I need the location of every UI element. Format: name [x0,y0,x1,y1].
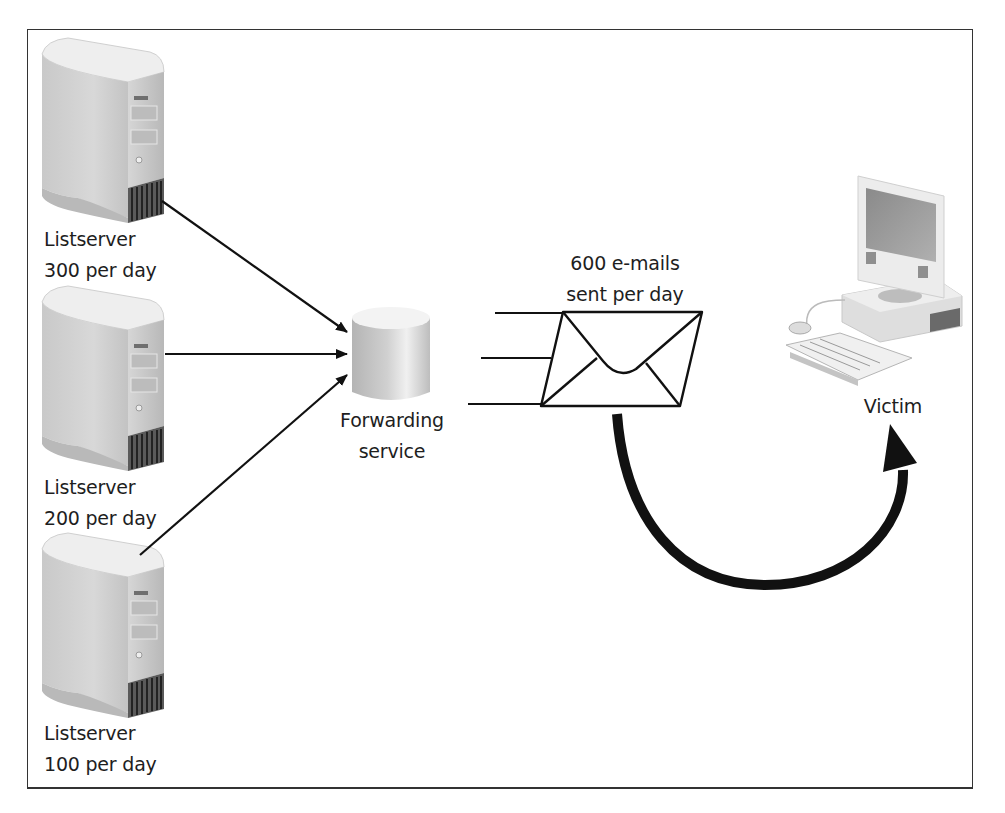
server-tower-icon [42,533,164,718]
listserver-3-rate: 100 per day [44,749,157,780]
listserver-1-rate: 300 per day [44,255,157,286]
victim-label: Victim [843,391,943,422]
database-cylinder-icon [352,307,430,400]
listserver-2-name: Listserver [44,472,157,503]
arrow-listserver3-to-forwarding [140,375,347,555]
forwarding-service-name: Forwarding [322,405,462,436]
listserver-2-rate: 200 per day [44,503,157,534]
listserver-2-label: Listserver 200 per day [44,472,157,534]
forwarding-service-name-2: service [322,436,462,467]
victim-name: Victim [843,391,943,422]
listserver-3-name: Listserver [44,718,157,749]
server-tower-icon [42,286,164,471]
server-tower-icon [42,38,164,223]
listserver-1-name: Listserver [44,224,157,255]
desktop-computer-icon [786,176,962,386]
curved-arrow-to-victim [617,414,917,585]
listserver-3-label: Listserver 100 per day [44,718,157,780]
email-volume-label: 600 e-mails sent per day [555,248,695,310]
forwarding-service-label: Forwarding service [322,405,462,467]
email-volume-count: 600 e-mails [555,248,695,279]
envelope-icon [541,312,702,406]
arrow-listserver1-to-forwarding [162,201,347,332]
email-volume-rate: sent per day [555,279,695,310]
listserver-1-label: Listserver 300 per day [44,224,157,286]
